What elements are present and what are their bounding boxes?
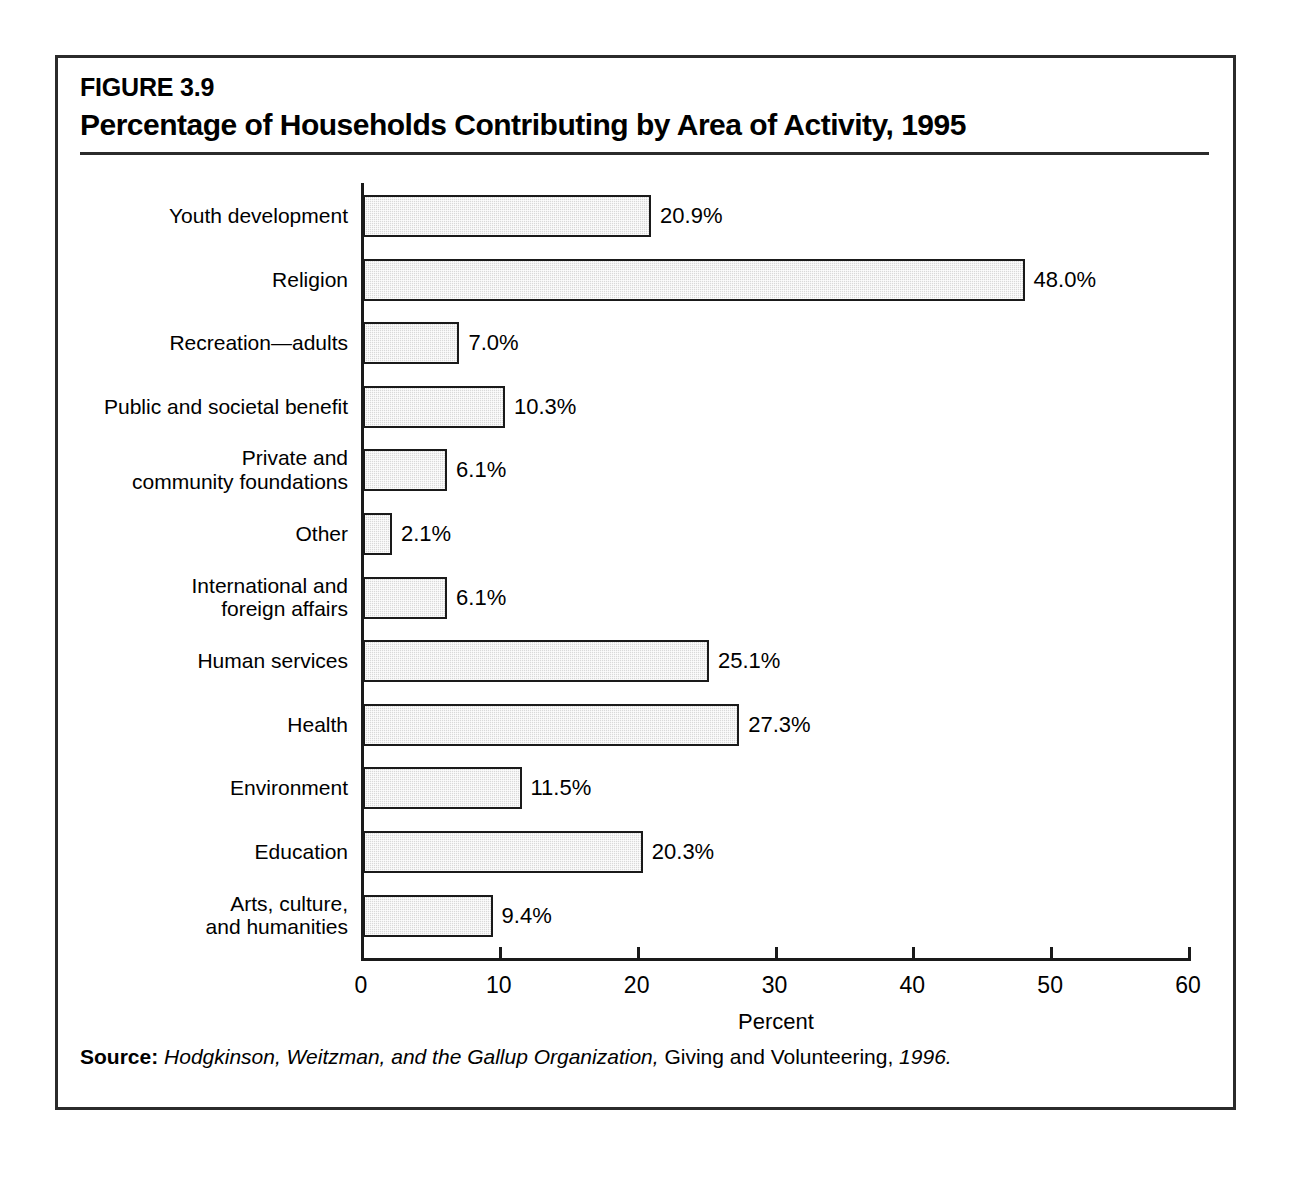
bar-category-label: Other xyxy=(0,522,348,546)
bar-category-label: Health xyxy=(0,713,348,737)
bar-category-label: Human services xyxy=(0,649,348,673)
bar-row: Education20.3% xyxy=(58,830,1233,874)
x-axis-tick xyxy=(361,947,364,958)
bar-row: Recreation—adults7.0% xyxy=(58,321,1233,365)
bar xyxy=(363,767,522,809)
bar xyxy=(363,513,392,555)
bar-row: Public and societal benefit10.3% xyxy=(58,385,1233,429)
bar-row: Other2.1% xyxy=(58,512,1233,556)
bar-category-label: Environment xyxy=(0,777,348,801)
bar-category-label: Arts, culture, and humanities xyxy=(0,892,348,939)
bar xyxy=(363,704,739,746)
bar-category-label: International and foreign affairs xyxy=(0,574,348,621)
source-publication: Giving and Volunteering, xyxy=(664,1045,893,1068)
bar-category-label: Religion xyxy=(0,268,348,292)
bar xyxy=(363,895,493,937)
x-axis-tick-label: 30 xyxy=(762,972,788,999)
bar xyxy=(363,831,643,873)
figure-header: FIGURE 3.9 Percentage of Households Cont… xyxy=(80,74,1210,155)
bar xyxy=(363,577,447,619)
bar-category-label: Public and societal benefit xyxy=(0,395,348,419)
bar-value-label: 10.3% xyxy=(514,394,576,420)
source-note: Source: Hodgkinson, Weitzman, and the Ga… xyxy=(80,1044,952,1069)
bar-value-label: 7.0% xyxy=(468,330,518,356)
bar xyxy=(363,259,1025,301)
bar xyxy=(363,640,709,682)
bar-value-label: 11.5% xyxy=(531,775,592,801)
bar-row: Arts, culture, and humanities9.4% xyxy=(58,894,1233,938)
bar-category-label: Youth development xyxy=(0,204,348,228)
x-axis-tick xyxy=(637,947,640,958)
x-axis-tick-label: 50 xyxy=(1037,972,1063,999)
bar-value-label: 2.1% xyxy=(401,521,451,547)
figure-number: FIGURE 3.9 xyxy=(80,74,1210,102)
title-divider xyxy=(80,152,1209,155)
bar-value-label: 6.1% xyxy=(456,585,506,611)
x-axis-tick xyxy=(912,947,915,958)
x-axis-tick-label: 10 xyxy=(486,972,512,999)
source-label: Source: xyxy=(80,1045,158,1068)
bar-row: Human services25.1% xyxy=(58,639,1233,683)
bar-value-label: 20.9% xyxy=(660,203,722,229)
bar-value-label: 27.3% xyxy=(748,712,810,738)
x-axis-tick-label: 20 xyxy=(624,972,650,999)
bar-row: Health27.3% xyxy=(58,703,1233,747)
figure-frame: FIGURE 3.9 Percentage of Households Cont… xyxy=(55,55,1236,1110)
bar xyxy=(363,322,459,364)
bar-value-label: 48.0% xyxy=(1034,267,1096,293)
page-title: Percentage of Households Contributing by… xyxy=(80,108,1210,143)
x-axis-tick xyxy=(1188,947,1191,958)
x-axis-tick xyxy=(775,947,778,958)
value-axis-line xyxy=(361,958,1191,961)
bar xyxy=(363,386,505,428)
bar-row: International and foreign affairs6.1% xyxy=(58,576,1233,620)
bar-category-label: Recreation—adults xyxy=(0,331,348,355)
bar-row: Private and community foundations6.1% xyxy=(58,448,1233,492)
x-axis-tick xyxy=(499,947,502,958)
bar-chart-plot: Youth development20.9%Religion48.0%Recre… xyxy=(58,183,1233,973)
bar-value-label: 25.1% xyxy=(718,648,780,674)
bar-value-label: 6.1% xyxy=(456,457,506,483)
x-axis-title: Percent xyxy=(361,1009,1191,1035)
bar-row: Youth development20.9% xyxy=(58,194,1233,238)
bar xyxy=(363,195,651,237)
bar xyxy=(363,449,447,491)
bar-row: Environment11.5% xyxy=(58,766,1233,810)
bar-category-label: Private and community foundations xyxy=(0,447,348,494)
source-year: 1996. xyxy=(899,1045,952,1068)
x-axis-tick-label: 0 xyxy=(355,972,368,999)
bar-category-label: Education xyxy=(0,840,348,864)
x-axis-tick xyxy=(1050,947,1053,958)
x-axis-tick-label: 40 xyxy=(900,972,926,999)
bar-row: Religion48.0% xyxy=(58,258,1233,302)
source-authors: Hodgkinson, Weitzman, and the Gallup Org… xyxy=(164,1045,659,1068)
bar-value-label: 20.3% xyxy=(652,839,714,865)
bar-value-label: 9.4% xyxy=(502,903,552,929)
x-axis-tick-label: 60 xyxy=(1175,972,1201,999)
